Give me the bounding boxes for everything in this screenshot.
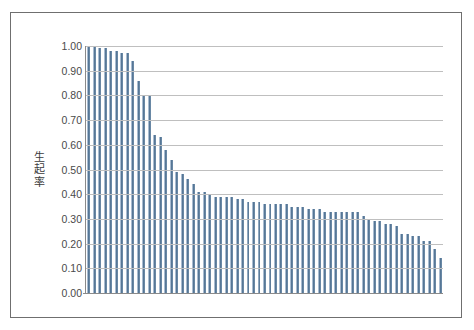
bar [170, 160, 173, 293]
bar [367, 219, 370, 293]
gridline [86, 194, 443, 195]
bar [406, 234, 409, 293]
chart-figure: 生起率 1.000.900.800.700.600.500.400.300.20… [0, 0, 474, 330]
bar [356, 212, 359, 294]
bar [318, 209, 321, 293]
bar [137, 81, 140, 293]
y-axis-tick-label: 0.80 [50, 89, 82, 101]
bar [159, 137, 162, 293]
gridline [86, 219, 443, 220]
y-axis-title: 生起率 [31, 151, 47, 189]
bar [241, 199, 244, 293]
bar [345, 212, 348, 294]
bar [323, 212, 326, 294]
bar [252, 202, 255, 293]
bar [181, 174, 184, 293]
bar [203, 192, 206, 293]
plot-area [86, 46, 443, 293]
bar [340, 212, 343, 294]
bar [236, 199, 239, 293]
bar [269, 204, 272, 293]
x-axis-line [83, 293, 443, 294]
y-axis-tick-label: 0.40 [50, 188, 82, 200]
bar [115, 51, 118, 293]
bar [384, 224, 387, 293]
bar [164, 150, 167, 293]
bar [395, 226, 398, 293]
y-axis-tick-labels: 1.000.900.800.700.600.500.400.300.200.10… [50, 0, 82, 330]
y-axis-tick-label: 0.00 [50, 287, 82, 299]
gridline [86, 46, 443, 47]
y-axis-tick-label: 1.00 [50, 40, 82, 52]
bar [126, 53, 129, 293]
bar [433, 249, 436, 293]
bar [285, 204, 288, 293]
bar [247, 202, 250, 293]
y-axis-tick-label: 0.30 [50, 213, 82, 225]
bar [153, 135, 156, 293]
gridline [86, 244, 443, 245]
bar [258, 202, 261, 293]
bar [175, 172, 178, 293]
y-axis-tick-label: 0.60 [50, 139, 82, 151]
gridline [86, 268, 443, 269]
y-axis-tick-label: 0.90 [50, 65, 82, 77]
y-axis-tick-label: 0.50 [50, 164, 82, 176]
y-axis-tick-label: 0.70 [50, 114, 82, 126]
bar [197, 192, 200, 293]
y-axis-tick-label: 0.10 [50, 262, 82, 274]
bar [263, 204, 266, 293]
bar [362, 216, 365, 293]
bar [378, 221, 381, 293]
bar [186, 179, 189, 293]
gridline [86, 145, 443, 146]
gridline [86, 170, 443, 171]
gridline [86, 71, 443, 72]
bar [312, 209, 315, 293]
bar [351, 212, 354, 294]
bar [192, 184, 195, 293]
y-axis-title-char: 起 [31, 163, 47, 176]
gridline [86, 95, 443, 96]
gridline [86, 120, 443, 121]
y-axis-title-char: 生 [31, 151, 47, 164]
bar [279, 204, 282, 293]
y-axis-title-char: 率 [31, 176, 47, 189]
bar [373, 221, 376, 293]
bar [400, 234, 403, 293]
bar [439, 258, 442, 293]
bar [109, 51, 112, 293]
bar [329, 212, 332, 294]
bar [120, 53, 123, 293]
bar [307, 209, 310, 293]
bar [389, 224, 392, 293]
bar [334, 212, 337, 294]
bar [274, 204, 277, 293]
y-axis-tick-label: 0.20 [50, 238, 82, 250]
